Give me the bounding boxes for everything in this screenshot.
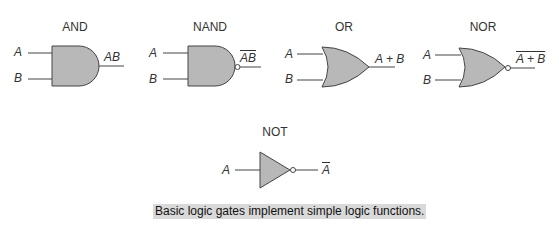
not-output: A: [322, 163, 330, 177]
or-gate-title: OR: [314, 20, 374, 34]
nor-gate-title: NOR: [453, 20, 513, 34]
nor-input-a: A: [423, 48, 431, 62]
nand-input-b: B: [149, 72, 157, 86]
nand-gate-title: NAND: [180, 20, 240, 34]
nand-input-a: A: [149, 46, 157, 60]
not-gate-title: NOT: [245, 125, 305, 139]
and-gate-title: AND: [45, 20, 105, 34]
figure-caption: Basic logic gates implement simple logic…: [153, 204, 426, 219]
and-output: AB: [104, 50, 120, 64]
or-output: A + B: [375, 52, 404, 66]
and-input-b: B: [14, 71, 22, 85]
or-input-a: A: [285, 47, 293, 61]
or-input-b: B: [285, 72, 293, 86]
nor-input-b: B: [423, 73, 431, 87]
not-input-a: A: [222, 163, 230, 177]
not-gate-symbol: [235, 152, 318, 188]
nand-output: AB: [240, 51, 256, 65]
nor-output: A + B: [516, 52, 545, 66]
and-input-a: A: [14, 45, 22, 59]
